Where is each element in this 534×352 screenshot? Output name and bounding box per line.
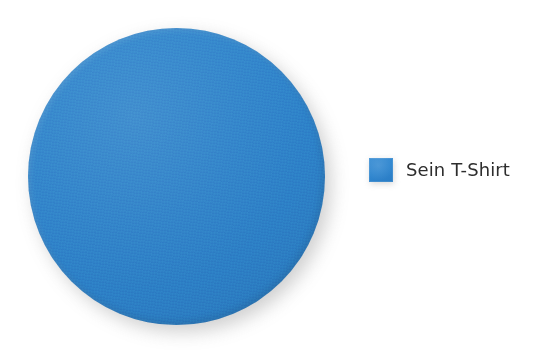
legend-swatch-icon	[369, 158, 393, 182]
legend-item-label: Sein T-Shirt	[406, 158, 510, 182]
figure-canvas: Sein T-Shirt	[0, 0, 534, 352]
legend: Sein T-Shirt	[369, 158, 510, 182]
blue-circle-rim	[28, 28, 325, 325]
legend-item	[369, 158, 393, 182]
blue-circle	[28, 28, 325, 325]
blue-circle-fill	[28, 28, 325, 325]
